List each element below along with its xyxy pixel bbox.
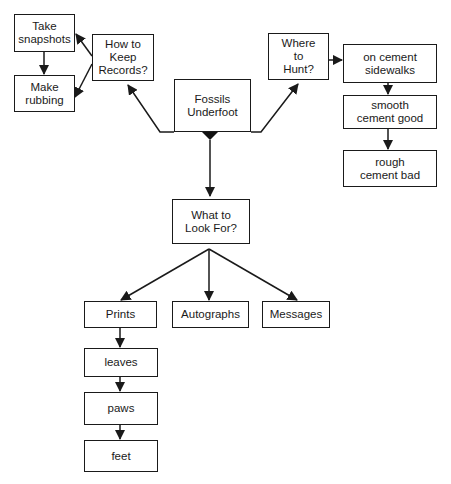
edge-records-to-rubbing bbox=[75, 64, 92, 97]
node-paws: paws bbox=[84, 392, 158, 425]
node-smooth-cement-good: smooth cement good bbox=[343, 95, 437, 129]
node-messages: Messages bbox=[262, 301, 330, 328]
edge-root-to-hunt bbox=[251, 84, 298, 132]
node-on-cement-sidewalks: on cement sidewalks bbox=[343, 44, 437, 83]
node-rough-cement-bad: rough cement bad bbox=[343, 150, 437, 187]
edge-lookfor-to-messages bbox=[209, 249, 297, 300]
edge-lookfor-to-prints bbox=[121, 249, 209, 300]
node-autographs: Autographs bbox=[172, 301, 249, 328]
node-where-to-hunt: Where to Hunt? bbox=[268, 33, 329, 80]
node-leaves: leaves bbox=[84, 348, 158, 377]
node-how-to-keep-records: How to Keep Records? bbox=[92, 34, 154, 81]
node-feet: feet bbox=[84, 440, 158, 472]
edge-root-to-records bbox=[128, 85, 174, 132]
node-fossils-underfoot: Fossils Underfoot bbox=[174, 79, 251, 132]
edge-records-to-snapshots bbox=[76, 34, 92, 56]
node-prints: Prints bbox=[84, 301, 157, 328]
concept-map: Fossils Underfoot How to Keep Records? T… bbox=[0, 0, 451, 484]
node-what-to-look-for: What to Look For? bbox=[172, 199, 250, 244]
node-make-rubbing: Make rubbing bbox=[14, 75, 75, 112]
node-take-snapshots: Take snapshots bbox=[14, 14, 75, 52]
